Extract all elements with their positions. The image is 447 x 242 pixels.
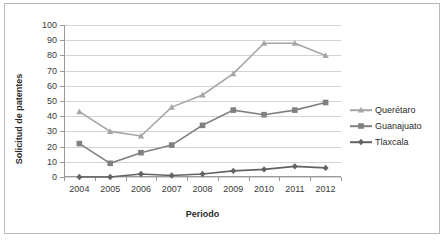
plot-area: 0102030405060708090100 20042005200620072… bbox=[64, 25, 341, 177]
x-tick-mark bbox=[310, 177, 311, 181]
data-point-marker bbox=[200, 123, 206, 129]
y-tick-label: 70 bbox=[47, 66, 57, 76]
data-point-marker bbox=[107, 161, 113, 167]
data-point-marker bbox=[261, 112, 267, 118]
data-point-marker bbox=[230, 107, 236, 113]
data-point-marker bbox=[200, 171, 206, 177]
legend-item-querétaro[interactable]: Querétaro bbox=[350, 102, 438, 118]
legend-item-guanajuato[interactable]: Guanajuato bbox=[350, 118, 438, 134]
data-point-marker bbox=[292, 107, 298, 113]
x-tick-label: 2011 bbox=[285, 184, 304, 194]
data-point-marker bbox=[138, 150, 144, 156]
legend-marker-icon bbox=[350, 136, 372, 148]
data-point-marker bbox=[323, 165, 329, 171]
series-guanajuato bbox=[77, 100, 329, 166]
x-tick-label: 2004 bbox=[69, 184, 89, 194]
data-point-marker bbox=[107, 174, 113, 180]
x-tick-mark bbox=[279, 177, 280, 181]
chart-container: Solicitud de patentes 010203040506070809… bbox=[4, 3, 440, 234]
y-tick-label: 90 bbox=[47, 35, 57, 45]
y-tick-label: 40 bbox=[47, 111, 57, 121]
legend-label: Tlaxcala bbox=[375, 137, 409, 147]
x-tick-mark bbox=[126, 177, 127, 181]
legend-marker-icon bbox=[350, 120, 372, 132]
legend-item-tlaxcala[interactable]: Tlaxcala bbox=[350, 134, 438, 150]
y-tick-label: 0 bbox=[52, 172, 57, 182]
x-tick-mark bbox=[341, 177, 342, 181]
data-point-marker bbox=[261, 166, 267, 172]
x-tick-label: 2006 bbox=[131, 184, 151, 194]
data-point-marker bbox=[77, 141, 83, 147]
x-tick-mark bbox=[187, 177, 188, 181]
y-tick-label: 100 bbox=[42, 20, 57, 30]
data-point-marker bbox=[76, 174, 82, 180]
x-tick-label: 2010 bbox=[254, 184, 274, 194]
data-point-marker bbox=[323, 100, 329, 106]
series-line bbox=[79, 43, 325, 136]
x-tick-mark bbox=[218, 177, 219, 181]
x-tick-mark bbox=[156, 177, 157, 181]
x-axis-title: Periodo bbox=[64, 209, 341, 219]
legend-label: Guanajuato bbox=[375, 121, 422, 131]
x-tick-label: 2009 bbox=[223, 184, 243, 194]
data-point-marker bbox=[358, 123, 364, 129]
x-tick-mark bbox=[64, 177, 65, 181]
y-tick-label: 60 bbox=[47, 81, 57, 91]
y-tick-label: 20 bbox=[47, 142, 57, 152]
data-point-marker bbox=[230, 168, 236, 174]
data-point-marker bbox=[76, 108, 82, 114]
x-tick-mark bbox=[249, 177, 250, 181]
y-tick-label: 50 bbox=[47, 96, 57, 106]
y-axis-title: Solicitud de patentes bbox=[14, 73, 24, 164]
y-tick-label: 10 bbox=[47, 157, 57, 167]
series-plot bbox=[64, 25, 341, 177]
x-tick-label: 2008 bbox=[192, 184, 212, 194]
x-tick-label: 2007 bbox=[162, 184, 182, 194]
data-point-marker bbox=[358, 107, 364, 113]
legend-marker-icon bbox=[350, 104, 372, 116]
y-tick-label: 30 bbox=[47, 126, 57, 136]
data-point-marker bbox=[358, 139, 364, 145]
legend-label: Querétaro bbox=[375, 105, 416, 115]
data-point-marker bbox=[292, 163, 298, 169]
chart-legend: QuerétaroGuanajuatoTlaxcala bbox=[350, 102, 438, 150]
data-point-marker bbox=[169, 142, 175, 148]
data-point-marker bbox=[138, 171, 144, 177]
y-tick-label: 80 bbox=[47, 50, 57, 60]
x-tick-label: 2005 bbox=[100, 184, 120, 194]
x-tick-label: 2012 bbox=[316, 184, 336, 194]
